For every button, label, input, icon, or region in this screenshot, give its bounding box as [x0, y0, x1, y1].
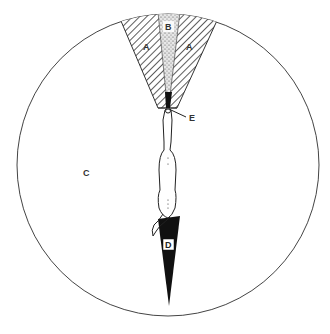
- label-a-left: A: [143, 42, 150, 52]
- zone-diagram: A A B C D E: [0, 0, 330, 334]
- label-c: C: [83, 168, 90, 178]
- label-e: E: [189, 113, 195, 123]
- label-a-right: A: [186, 42, 193, 52]
- label-b: B: [165, 22, 172, 32]
- label-d: D: [165, 240, 172, 250]
